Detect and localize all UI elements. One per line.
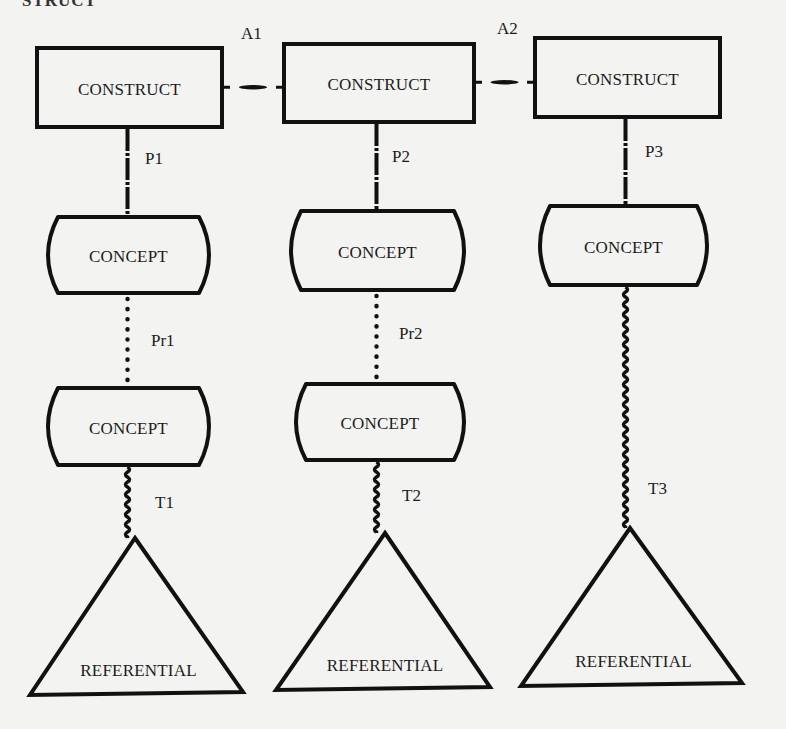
- link-label-p3: P3: [645, 143, 663, 160]
- construct-1-label: CONSTRUCT: [78, 80, 181, 97]
- diagram-shapes: [30, 38, 742, 695]
- referential-1-label: REFERENTIAL: [80, 661, 196, 678]
- concept-1b-label: CONCEPT: [89, 419, 168, 436]
- link-label-pr1: Pr1: [151, 332, 175, 349]
- link-label-p1: P1: [145, 150, 163, 167]
- construct-2-label: CONSTRUCT: [328, 76, 431, 93]
- construct-3-label: CONSTRUCT: [576, 70, 679, 87]
- concept-1a-label: CONCEPT: [89, 248, 168, 265]
- link-label-a1: A1: [241, 25, 262, 42]
- link-label-t2: T2: [402, 487, 421, 504]
- concept-2a-label: CONCEPT: [338, 243, 417, 260]
- referential-3-label: REFERENTIAL: [575, 652, 691, 669]
- link-a1-dash: [239, 85, 267, 89]
- diagram-canvas: [0, 0, 786, 729]
- link-label-p2: P2: [392, 148, 410, 165]
- link-label-t1: T1: [155, 494, 174, 511]
- link-a2-dash: [491, 80, 519, 84]
- link-t2: [375, 462, 379, 533]
- link-label-pr2: Pr2: [399, 325, 423, 342]
- link-t3: [624, 287, 628, 528]
- referential-2-label: REFERENTIAL: [327, 656, 443, 673]
- link-t1: [126, 467, 130, 538]
- link-label-a2: A2: [497, 20, 518, 37]
- link-label-t3: T3: [648, 480, 667, 497]
- concept-2b-label: CONCEPT: [341, 415, 420, 432]
- concept-3a-label: CONCEPT: [584, 238, 663, 255]
